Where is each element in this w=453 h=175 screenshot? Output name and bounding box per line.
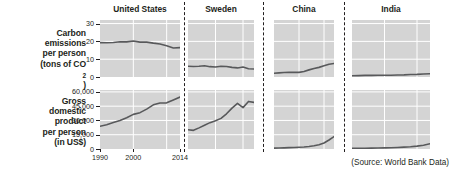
series-line-gdp-china [274, 137, 334, 149]
x-axis-tick-label: 2014 [165, 153, 195, 162]
y-axis-tick-mark [96, 120, 100, 121]
y-axis-tick-label: 30 [60, 19, 94, 28]
y-axis-tick-mark [96, 41, 100, 42]
y-axis-tick-mark [96, 59, 100, 60]
plot-panel-carbon-united-states [100, 20, 180, 77]
plot-svg [274, 20, 334, 77]
y-axis-tick-label: 20 [60, 37, 94, 46]
series-line-gdp-united-states [100, 97, 180, 126]
plot-panel-gdp-sweden [188, 90, 254, 149]
y-axis-tick-label: 60,000 [60, 87, 94, 96]
x-axis-tick-label: 1990 [85, 153, 115, 162]
plot-panel-gdp-india [352, 90, 430, 149]
x-axis-tick-mark [133, 149, 134, 152]
column-title-india: India [352, 4, 430, 14]
y-axis-tick-label: 15,000 [60, 130, 94, 139]
y-axis-tick-mark [96, 135, 100, 136]
plot-panel-carbon-china [274, 20, 334, 77]
x-axis-tick-mark [100, 149, 101, 152]
panel-divider-3 [344, 2, 345, 152]
y-axis-tick-label: 45,000 [60, 102, 94, 111]
x-axis-tick-mark [180, 149, 181, 152]
y-axis-tick-mark [96, 24, 100, 25]
plot-svg [352, 90, 430, 149]
panel-divider-2 [263, 2, 264, 152]
series-line-carbon-sweden [188, 66, 254, 69]
y-axis-tick-label: 0 [60, 73, 94, 82]
plot-panel-carbon-sweden [188, 20, 254, 77]
series-line-carbon-china [274, 63, 334, 73]
y-axis-tick-mark [96, 77, 100, 78]
series-line-gdp-india [352, 144, 430, 149]
series-line-carbon-india [352, 74, 430, 76]
plot-svg [100, 90, 180, 149]
panel-divider-1 [184, 2, 185, 152]
plot-svg [188, 20, 254, 77]
plot-panel-gdp-china [274, 90, 334, 149]
column-title-china: China [274, 4, 334, 14]
source-note: (Source: World Bank Data) [351, 158, 449, 167]
series-line-carbon-united-states [100, 41, 180, 48]
plot-svg [274, 90, 334, 149]
plot-svg [100, 20, 180, 77]
y-axis-tick-mark [96, 106, 100, 107]
column-title-united-states: United States [100, 4, 180, 14]
plot-panel-gdp-united-states [100, 90, 180, 149]
figure-multi-panel-chart: Carbon emissions per person (tons of CO2… [0, 0, 453, 175]
plot-svg [188, 90, 254, 149]
y-axis-tick-label: 30,000 [60, 116, 94, 125]
plot-panel-carbon-india [352, 20, 430, 77]
column-title-sweden: Sweden [188, 4, 254, 14]
x-axis-tick-label: 2000 [118, 153, 148, 162]
plot-svg [352, 20, 430, 77]
y-axis-tick-label: 10 [60, 55, 94, 64]
y-axis-tick-mark [96, 92, 100, 93]
